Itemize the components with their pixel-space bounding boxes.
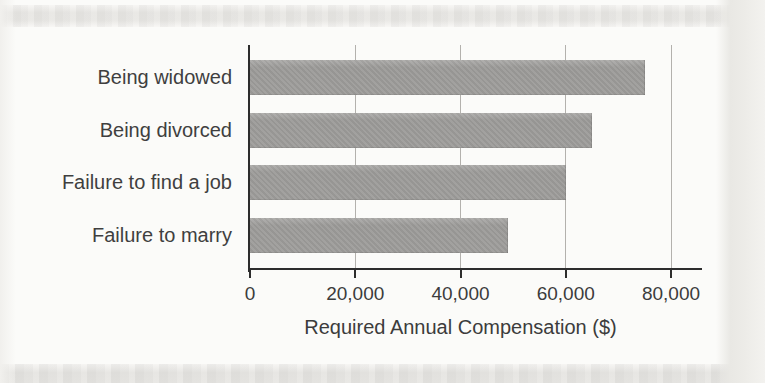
bar-being-divorced <box>250 113 592 148</box>
page-edge-shading-right <box>716 0 765 383</box>
bar-failure-to-find-a-job <box>250 165 566 200</box>
category-label-being-widowed: Being widowed <box>0 60 232 95</box>
x-axis-tick-label-20000: 20,000 <box>326 283 384 305</box>
x-axis-tick-60000 <box>565 270 567 278</box>
x-axis-tick-label-80000: 80,000 <box>642 283 700 305</box>
page-texture-band-top <box>0 5 765 27</box>
scanned-figure-page: Being widowedBeing divorcedFailure to fi… <box>0 0 765 383</box>
x-axis-tick-label-40000: 40,000 <box>431 283 489 305</box>
x-axis-tick-label-0: 0 <box>245 283 256 305</box>
x-axis-tick-20000 <box>354 270 356 278</box>
category-labels: Being widowedBeing divorcedFailure to fi… <box>0 60 232 253</box>
category-label-being-divorced: Being divorced <box>0 113 232 148</box>
x-axis-line <box>248 268 702 270</box>
category-label-failure-to-marry: Failure to marry <box>0 218 232 253</box>
x-axis-tick-80000 <box>670 270 672 278</box>
x-axis-title: Required Annual Compensation ($) <box>250 316 671 339</box>
page-texture-band-bottom <box>0 364 765 383</box>
x-axis-tick-label-60000: 60,000 <box>537 283 595 305</box>
plot-area: Required Annual Compensation ($) 020,000… <box>250 45 702 268</box>
category-label-failure-to-find-a-job: Failure to find a job <box>0 165 232 200</box>
bar-being-widowed <box>250 60 645 95</box>
x-axis-tick-40000 <box>460 270 462 278</box>
bar-group <box>250 60 702 253</box>
x-axis-tick-0 <box>249 270 251 278</box>
bar-failure-to-marry <box>250 218 508 253</box>
